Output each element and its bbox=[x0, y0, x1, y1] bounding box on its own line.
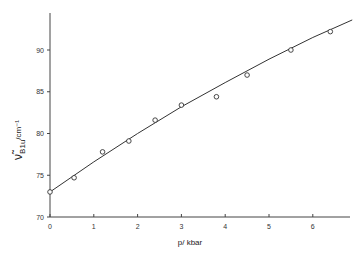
fit-line bbox=[50, 20, 352, 192]
data-point bbox=[127, 139, 132, 144]
x-axis-label: p/ kbar bbox=[178, 238, 203, 247]
chart: 01234567075808590p/ kbarν̃B1u/cm⁻¹ bbox=[0, 0, 361, 256]
x-tick-label: 2 bbox=[136, 223, 140, 230]
x-tick-label: 5 bbox=[267, 223, 271, 230]
y-tick-label: 70 bbox=[36, 214, 44, 221]
data-point bbox=[48, 190, 53, 195]
x-tick-label: 6 bbox=[311, 223, 315, 230]
data-point bbox=[179, 103, 184, 108]
data-point bbox=[72, 175, 77, 180]
data-point bbox=[214, 94, 219, 99]
data-point bbox=[153, 118, 158, 123]
y-axis-label: ν̃B1u/cm⁻¹ bbox=[11, 120, 27, 160]
data-point bbox=[245, 73, 250, 78]
axes: 01234567075808590p/ kbarν̃B1u/cm⁻¹ bbox=[11, 13, 350, 247]
x-tick-label: 3 bbox=[179, 223, 183, 230]
data-point bbox=[100, 150, 105, 155]
x-tick-label: 0 bbox=[48, 223, 52, 230]
x-tick-label: 1 bbox=[92, 223, 96, 230]
y-tick-label: 90 bbox=[36, 47, 44, 54]
data-point bbox=[328, 29, 333, 34]
y-tick-label: 75 bbox=[36, 172, 44, 179]
plot-area bbox=[48, 20, 353, 194]
x-tick-label: 4 bbox=[223, 223, 227, 230]
data-point bbox=[289, 48, 294, 53]
y-tick-label: 85 bbox=[36, 88, 44, 95]
y-tick-label: 80 bbox=[36, 130, 44, 137]
